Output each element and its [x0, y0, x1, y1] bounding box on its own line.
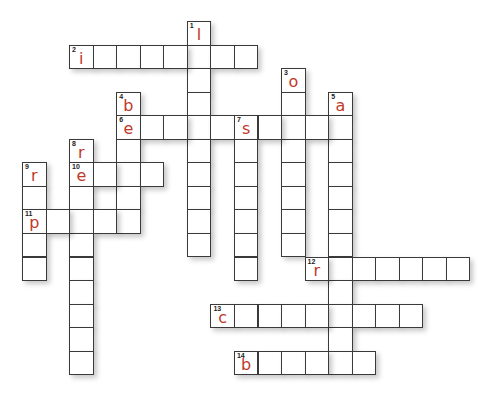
crossword-cell[interactable]	[69, 209, 94, 234]
crossword-cell[interactable]	[116, 45, 141, 70]
crossword-cell[interactable]	[281, 209, 306, 234]
crossword-cell[interactable]: 2i	[69, 45, 94, 70]
crossword-cell[interactable]: 12r	[305, 257, 330, 282]
crossword-cell[interactable]: 5a	[328, 92, 353, 117]
crossword-cell[interactable]: 8r	[69, 139, 94, 164]
crossword-cell[interactable]	[234, 45, 259, 70]
crossword-cell[interactable]	[258, 115, 283, 140]
crossword-cell[interactable]	[328, 209, 353, 234]
crossword-cell[interactable]	[375, 257, 400, 282]
crossword-cell[interactable]	[116, 139, 141, 164]
crossword-cell[interactable]	[69, 280, 94, 305]
crossword-cell[interactable]	[187, 162, 212, 187]
crossword-cell[interactable]	[22, 233, 47, 258]
crossword-cell[interactable]	[328, 139, 353, 164]
crossword-cell[interactable]	[328, 257, 353, 282]
entered-letter: r	[23, 167, 46, 185]
crossword-cell[interactable]	[352, 304, 377, 329]
crossword-cell[interactable]: 7s	[234, 115, 259, 140]
crossword-cell[interactable]	[69, 186, 94, 211]
entered-letter: r	[70, 144, 93, 162]
entered-letter: e	[70, 167, 93, 185]
crossword-cell[interactable]: 4b	[116, 92, 141, 117]
crossword-cell[interactable]	[305, 304, 330, 329]
entered-letter: b	[235, 356, 258, 374]
crossword-cell[interactable]	[281, 351, 306, 376]
crossword-cell[interactable]	[328, 186, 353, 211]
crossword-cell[interactable]	[234, 233, 259, 258]
entered-letter: s	[235, 120, 258, 138]
crossword-cell[interactable]	[328, 233, 353, 258]
crossword-cell[interactable]	[234, 209, 259, 234]
crossword-cell[interactable]	[187, 233, 212, 258]
crossword-cell[interactable]	[163, 115, 188, 140]
crossword-cell[interactable]	[375, 304, 400, 329]
crossword-cell[interactable]: 14b	[234, 351, 259, 376]
crossword-cell[interactable]	[46, 209, 71, 234]
crossword-cell[interactable]	[234, 304, 259, 329]
crossword-cell[interactable]	[328, 351, 353, 376]
crossword-cell[interactable]: 9r	[22, 162, 47, 187]
crossword-cell[interactable]: 1l	[187, 21, 212, 46]
crossword-cell[interactable]	[116, 209, 141, 234]
crossword-cell[interactable]	[281, 186, 306, 211]
crossword-cell[interactable]	[163, 45, 188, 70]
crossword-cell[interactable]: 6e	[116, 115, 141, 140]
crossword-cell[interactable]	[305, 351, 330, 376]
crossword-cell[interactable]	[234, 162, 259, 187]
crossword-cell[interactable]	[22, 186, 47, 211]
crossword-cell[interactable]	[446, 257, 471, 282]
crossword-cell[interactable]: 13c	[210, 304, 235, 329]
crossword-cell[interactable]	[352, 257, 377, 282]
crossword-cell[interactable]	[234, 139, 259, 164]
crossword-cell[interactable]	[328, 162, 353, 187]
crossword-cell[interactable]	[328, 115, 353, 140]
crossword-cell[interactable]	[258, 351, 283, 376]
crossword-cell[interactable]	[187, 186, 212, 211]
crossword-cell[interactable]	[140, 45, 165, 70]
crossword-cell[interactable]	[258, 304, 283, 329]
crossword-cell[interactable]	[187, 115, 212, 140]
crossword-cell[interactable]	[69, 233, 94, 258]
crossword-cell[interactable]	[69, 327, 94, 352]
crossword-cell[interactable]	[22, 257, 47, 282]
crossword-cell[interactable]	[281, 304, 306, 329]
crossword-cell[interactable]: 3o	[281, 68, 306, 93]
crossword-cell[interactable]	[281, 233, 306, 258]
crossword-cell[interactable]	[328, 304, 353, 329]
crossword-cell[interactable]	[93, 209, 118, 234]
crossword-cell[interactable]	[93, 45, 118, 70]
crossword-cell[interactable]	[69, 351, 94, 376]
crossword-cell[interactable]	[234, 257, 259, 282]
crossword-cell[interactable]	[352, 351, 377, 376]
crossword-cell[interactable]	[140, 115, 165, 140]
crossword-cell[interactable]	[328, 327, 353, 352]
crossword-cell[interactable]	[328, 280, 353, 305]
crossword-cell[interactable]	[281, 115, 306, 140]
crossword-cell[interactable]	[187, 92, 212, 117]
crossword-cell[interactable]	[69, 304, 94, 329]
crossword-cell[interactable]: 11p	[22, 209, 47, 234]
crossword-cell[interactable]	[210, 115, 235, 140]
crossword-cell[interactable]	[281, 162, 306, 187]
crossword-cell[interactable]	[234, 186, 259, 211]
crossword-cell[interactable]	[422, 257, 447, 282]
crossword-cell[interactable]	[69, 257, 94, 282]
entered-letter: b	[117, 97, 140, 115]
crossword-cell[interactable]	[187, 139, 212, 164]
crossword-cell[interactable]	[187, 68, 212, 93]
crossword-cell[interactable]	[187, 209, 212, 234]
crossword-cell[interactable]	[93, 162, 118, 187]
entered-letter: l	[188, 26, 211, 44]
crossword-cell[interactable]	[210, 45, 235, 70]
crossword-cell[interactable]	[281, 139, 306, 164]
crossword-cell[interactable]	[399, 304, 424, 329]
crossword-cell[interactable]	[305, 115, 330, 140]
crossword-cell[interactable]	[116, 186, 141, 211]
crossword-cell[interactable]	[140, 162, 165, 187]
crossword-cell[interactable]	[116, 162, 141, 187]
crossword-cell[interactable]	[187, 45, 212, 70]
crossword-cell[interactable]	[399, 257, 424, 282]
crossword-cell[interactable]: 10e	[69, 162, 94, 187]
crossword-cell[interactable]	[281, 92, 306, 117]
